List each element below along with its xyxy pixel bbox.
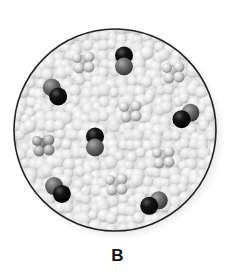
figure-label: B <box>0 246 235 266</box>
diatomic-molecule <box>115 47 133 76</box>
diatomic-molecule <box>86 128 104 157</box>
particle-diagram <box>0 0 235 274</box>
